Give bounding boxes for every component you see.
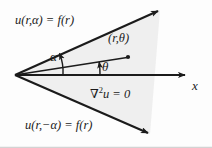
alpha-angle-label: α [50, 50, 57, 63]
laplace-equation-label: ∇2u = 0 [90, 86, 130, 101]
x-axis-label: x [192, 79, 198, 92]
lower-boundary-condition-label: u(r,−α) = f(r) [25, 119, 93, 132]
point-dot [126, 55, 130, 59]
theta-angle-arc [99, 62, 100, 75]
polar-point-label: (r,θ) [108, 32, 129, 45]
laplace-equation-rest: u = 0 [103, 87, 130, 101]
nabla-symbol: ∇ [90, 87, 99, 101]
theta-angle-label: θ [102, 60, 108, 73]
upper-boundary-condition-label: u(r,α) = f(r) [15, 14, 74, 27]
wedge-laplace-diagram: u(r,α) = f(r) u(r,−α) = f(r) (r,θ) ∇2u =… [0, 0, 212, 148]
